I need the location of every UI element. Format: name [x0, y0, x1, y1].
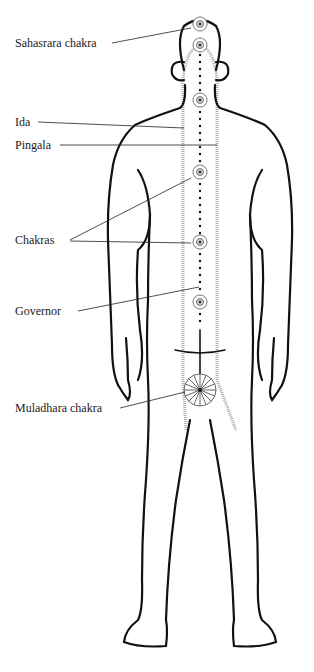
label-chakras: Chakras [15, 233, 54, 248]
chakra-throat-icon [193, 93, 207, 107]
body-outline [108, 20, 292, 647]
label-ida: Ida [15, 115, 30, 130]
label-governor: Governor [15, 304, 61, 319]
chakra-muladhara-icon [184, 374, 216, 406]
chakra-heart-icon [193, 165, 207, 179]
chakra-sacral-icon [193, 295, 207, 309]
chakra-crown-icon [193, 38, 207, 52]
label-muladhara: Muladhara chakra [15, 401, 102, 416]
energy-channels [183, 46, 236, 430]
label-sahasrara: Sahasrara chakra [15, 36, 97, 51]
label-pingala: Pingala [15, 138, 51, 153]
chakra-solar-icon [193, 235, 207, 249]
diagram-canvas [0, 0, 314, 672]
chakra-sahasrara-icon [193, 17, 207, 31]
